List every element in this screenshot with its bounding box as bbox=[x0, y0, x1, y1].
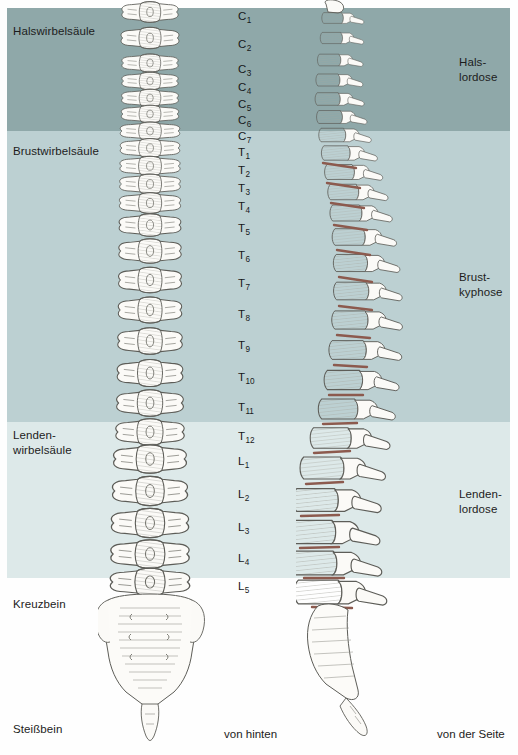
vertebra-number: 9 bbox=[245, 345, 250, 354]
label-cervical-lordosis: Hals- lordose bbox=[459, 55, 497, 84]
vertebra-number: 4 bbox=[245, 206, 250, 215]
vertebra-letter: C bbox=[238, 10, 246, 22]
vertebra-number: 7 bbox=[245, 283, 250, 292]
vertebra-label-L2: L2 bbox=[238, 488, 249, 500]
vertebra-number: 7 bbox=[247, 136, 252, 145]
vertebra-letter: L bbox=[238, 580, 244, 592]
vertebra-number: 1 bbox=[245, 152, 250, 161]
label-cervical-spine: Halswirbelsäule bbox=[13, 24, 95, 39]
vertebra-letter: C bbox=[238, 38, 246, 50]
vertebra-number: 1 bbox=[245, 461, 250, 470]
vertebra-number: 3 bbox=[245, 188, 250, 197]
vertebra-number: 8 bbox=[245, 314, 250, 323]
vertebra-number: 6 bbox=[247, 120, 252, 129]
label-thoracic-spine: Brustwirbelsäule bbox=[13, 144, 99, 159]
vertebra-label-C2: C2 bbox=[238, 38, 251, 50]
vertebra-number: 3 bbox=[247, 69, 252, 78]
vertebra-letter: C bbox=[238, 130, 246, 142]
vertebra-number: 5 bbox=[247, 104, 252, 113]
vertebra-letter: T bbox=[238, 200, 245, 212]
vertebra-letter: T bbox=[238, 371, 245, 383]
vertebra-label-T12: T12 bbox=[238, 430, 254, 442]
vertebra-letter: T bbox=[238, 146, 245, 158]
vertebra-label-C6: C6 bbox=[238, 114, 251, 126]
vertebra-label-T8: T8 bbox=[238, 308, 250, 320]
vertebra-number: 1 bbox=[247, 16, 252, 25]
vertebra-number: 2 bbox=[245, 170, 250, 179]
label-lumbar-lordosis: Lenden- lordose bbox=[459, 487, 502, 516]
label-lumbar-spine: Lenden- wirbelsäule bbox=[13, 428, 72, 457]
vertebra-label-C1: C1 bbox=[238, 10, 251, 22]
vertebra-letter: L bbox=[238, 521, 244, 533]
vertebra-letter: T bbox=[238, 277, 245, 289]
vertebra-number: 6 bbox=[245, 255, 250, 264]
vertebra-letter: L bbox=[238, 488, 244, 500]
vertebra-label-T2: T2 bbox=[238, 164, 250, 176]
vertebra-letter: T bbox=[238, 339, 245, 351]
vertebra-letter: C bbox=[238, 81, 246, 93]
vertebra-level-labels: C1C2C3C4C5C6C7T1T2T3T4T5T6T7T8T9T10T11T1… bbox=[238, 0, 284, 755]
vertebra-label-T7: T7 bbox=[238, 277, 250, 289]
caption-posterior-view: von hinten bbox=[224, 728, 277, 740]
vertebra-label-L4: L4 bbox=[238, 552, 249, 564]
vertebra-label-C4: C4 bbox=[238, 81, 251, 93]
caption-lateral-view: von der Seite bbox=[437, 728, 505, 740]
vertebra-label-T10: T10 bbox=[238, 371, 254, 383]
label-thoracic-kyphosis: Brust- kyphose bbox=[459, 270, 503, 299]
vertebra-letter: L bbox=[238, 552, 244, 564]
vertebra-label-T9: T9 bbox=[238, 339, 250, 351]
vertebra-letter: T bbox=[238, 164, 245, 176]
label-coccyx: Steißbein bbox=[13, 722, 62, 737]
vertebra-number: 12 bbox=[245, 436, 254, 445]
vertebra-letter: T bbox=[238, 249, 245, 261]
vertebra-label-C5: C5 bbox=[238, 98, 251, 110]
vertebra-number: 5 bbox=[245, 586, 250, 595]
vertebra-label-C3: C3 bbox=[238, 63, 251, 75]
vertebra-label-L3: L3 bbox=[238, 521, 249, 533]
vertebra-letter: T bbox=[238, 430, 245, 442]
label-sacrum: Kreuzbein bbox=[13, 597, 66, 612]
vertebra-letter: C bbox=[238, 114, 246, 126]
vertebra-number: 2 bbox=[247, 44, 252, 53]
vertebra-label-T4: T4 bbox=[238, 200, 250, 212]
vertebra-label-L5: L5 bbox=[238, 580, 249, 592]
vertebra-letter: C bbox=[238, 63, 246, 75]
vertebra-label-T1: T1 bbox=[238, 146, 250, 158]
spine-diagram: Halswirbelsäule Brustwirbelsäule Lenden-… bbox=[0, 0, 518, 755]
vertebra-label-L1: L1 bbox=[238, 455, 249, 467]
vertebra-number: 2 bbox=[245, 494, 250, 503]
vertebra-number: 3 bbox=[245, 527, 250, 536]
vertebra-letter: L bbox=[238, 455, 244, 467]
vertebra-label-C7: C7 bbox=[238, 130, 251, 142]
vertebra-label-T6: T6 bbox=[238, 249, 250, 261]
vertebra-number: 4 bbox=[247, 87, 252, 96]
vertebra-label-T11: T11 bbox=[238, 401, 254, 413]
vertebra-number: 10 bbox=[245, 377, 254, 386]
vertebra-letter: T bbox=[238, 308, 245, 320]
vertebra-number: 4 bbox=[245, 558, 250, 567]
vertebra-label-T3: T3 bbox=[238, 182, 250, 194]
lateral-spine-illustration bbox=[296, 0, 466, 755]
vertebra-number: 5 bbox=[245, 228, 250, 237]
vertebra-label-T5: T5 bbox=[238, 222, 250, 234]
vertebra-letter: C bbox=[238, 98, 246, 110]
vertebra-letter: T bbox=[238, 222, 245, 234]
vertebra-letter: T bbox=[238, 401, 245, 413]
vertebra-letter: T bbox=[238, 182, 245, 194]
posterior-spine-illustration bbox=[98, 0, 248, 755]
vertebra-number: 11 bbox=[245, 407, 254, 416]
